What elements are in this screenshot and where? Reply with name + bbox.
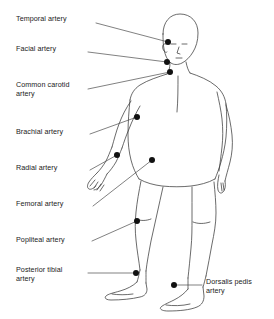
nose — [177, 47, 180, 54]
leg-left-outer — [135, 181, 141, 270]
foot-left-outline — [105, 282, 147, 300]
hand-left-thumb-edge — [94, 174, 107, 190]
torso-right — [215, 104, 227, 179]
hand-left-outline — [88, 173, 98, 189]
label-brachial-artery: Brachial artery — [16, 127, 63, 136]
dot-temporal — [165, 39, 171, 45]
dot-common-carotid — [167, 69, 173, 75]
dot-popliteal — [134, 218, 140, 224]
dot-radial — [114, 152, 120, 158]
leader-radial — [90, 155, 117, 170]
knee-right-crease — [193, 222, 210, 224]
leader-common-carotid — [88, 72, 170, 89]
dot-facial — [164, 59, 170, 65]
foot-right-outline — [160, 287, 204, 311]
finger-3 — [97, 184, 101, 190]
label-dorsalis-pedis-artery: Dorsalis pedis artery — [206, 277, 252, 296]
forearm-left-inner — [107, 148, 122, 174]
dot-posterior-tibial — [133, 270, 139, 276]
foot-right-toe-line — [166, 304, 190, 306]
forearm-left-outer — [97, 147, 112, 173]
dot-femoral — [149, 157, 155, 163]
leader-brachial — [90, 117, 137, 134]
neck-right — [186, 62, 190, 73]
leg-right-inner — [188, 187, 192, 278]
leg-left-inner — [146, 187, 163, 271]
label-femoral-artery: Femoral artery — [16, 199, 63, 208]
body-outline — [88, 14, 233, 311]
shoulder-left — [130, 74, 167, 100]
label-facial-artery: Facial artery — [16, 44, 56, 53]
artery-diagram-page: Temporal artery Facial artery Common car… — [0, 0, 274, 319]
finger-2 — [94, 182, 98, 188]
leader-facial — [88, 52, 167, 62]
leader-lines — [88, 23, 202, 285]
hip-line — [139, 179, 215, 187]
pulse-point-dots — [114, 39, 177, 288]
label-temporal-artery: Temporal artery — [16, 14, 67, 23]
torso-left — [128, 100, 139, 179]
label-popliteal-artery: Popliteal artery — [16, 235, 65, 244]
sternum-line — [177, 76, 178, 112]
ear-outline — [163, 44, 167, 53]
leader-popliteal — [92, 221, 137, 241]
dot-brachial — [134, 114, 140, 120]
dot-dorsalis-pedis — [171, 282, 177, 288]
shoulder-right — [190, 73, 226, 104]
label-radial-artery: Radial artery — [16, 163, 57, 172]
label-posterior-tibial-artery: Posterior tibial artery — [16, 265, 62, 284]
finger-r1 — [221, 183, 222, 191]
finger-1 — [90, 180, 95, 186]
foot-left-toe-line — [112, 294, 133, 295]
upper-arm-left-inner — [122, 106, 140, 148]
arm-right-outer — [225, 105, 232, 181]
label-common-carotid-artery: Common carotid artery — [16, 80, 69, 99]
leg-right-outer — [206, 182, 216, 276]
leader-temporal — [96, 23, 168, 42]
finger-r2 — [223, 183, 224, 190]
